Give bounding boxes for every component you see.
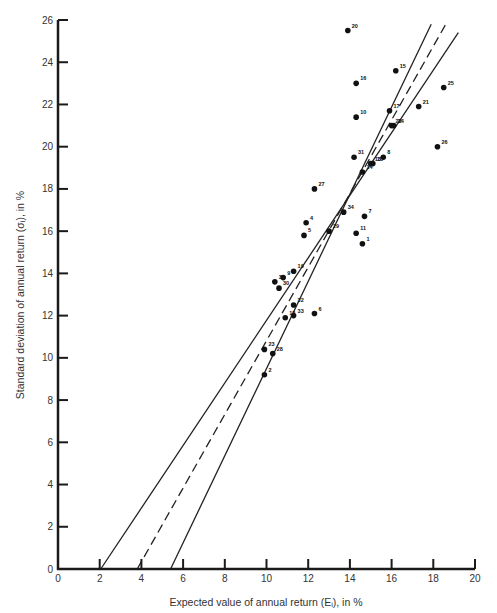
data-point: 1: [360, 236, 370, 247]
point-label: 30: [283, 280, 289, 286]
data-point: 7: [362, 208, 372, 219]
left-solid-line: [101, 33, 459, 569]
point-marker: [341, 209, 347, 215]
data-point: 19: [291, 263, 304, 274]
point-label: 25: [448, 80, 454, 86]
point-marker: [272, 279, 278, 285]
point-label: 32: [298, 297, 304, 303]
point-label: 31: [358, 149, 364, 155]
point-marker: [282, 315, 288, 321]
point-label: 27: [318, 181, 324, 187]
y-tick-label: 4: [47, 479, 53, 490]
y-tick-label: 24: [42, 57, 54, 68]
x-axis-title: Expected value of annual return (Eᵢ), in…: [169, 596, 362, 608]
y-tick-label: 26: [42, 15, 54, 26]
point-label: 11: [360, 225, 366, 231]
data-point: 11: [353, 225, 366, 236]
point-label: 4: [310, 215, 314, 221]
x-tick-label: 12: [303, 573, 315, 584]
y-tick-label: 0: [47, 564, 53, 575]
point-label: 10: [360, 109, 366, 115]
point-label: 1: [366, 236, 369, 242]
x-tick-label: 2: [97, 573, 103, 584]
point-label: 21: [423, 99, 429, 105]
point-marker: [416, 104, 422, 110]
point-marker: [435, 144, 441, 150]
y-tick-label: 12: [42, 310, 54, 321]
point-label: 16: [360, 75, 366, 81]
x-tick-label: 6: [180, 573, 186, 584]
point-label: 18: [377, 156, 383, 162]
x-tick-label: 4: [139, 573, 145, 584]
data-point: 10: [353, 109, 366, 120]
point-label: 17: [394, 103, 400, 109]
y-tick-label: 20: [42, 141, 54, 152]
data-point: 27: [312, 181, 325, 192]
point-marker: [291, 313, 297, 319]
data-point: 4: [303, 215, 314, 226]
point-marker: [270, 351, 276, 357]
data-point: 20: [345, 23, 358, 34]
y-tick-label: 8: [47, 395, 53, 406]
point-marker: [441, 85, 447, 91]
point-marker: [353, 114, 359, 120]
y-tick-label: 10: [42, 352, 54, 363]
point-label: 28: [277, 346, 283, 352]
point-marker: [391, 123, 397, 129]
point-marker: [312, 186, 318, 192]
x-tick-label: 16: [386, 573, 398, 584]
point-label: 29: [333, 223, 339, 229]
point-label: 20: [352, 23, 358, 29]
data-point: 6: [312, 306, 322, 317]
data-point: 21: [416, 99, 429, 110]
x-tick-label: 20: [469, 573, 481, 584]
y-tick-label: 6: [47, 437, 53, 448]
point-label: 8: [387, 149, 390, 155]
data-point: 18: [370, 156, 383, 167]
y-tick-label: 22: [42, 99, 54, 110]
point-label: 33: [298, 308, 304, 314]
point-marker: [301, 233, 307, 239]
point-marker: [276, 285, 282, 291]
data-points: 1234567891011121314151617181920212223242…: [262, 23, 454, 378]
point-label: 23: [268, 341, 274, 347]
y-axis-title: Standard deviation of annual return (σᵢ)…: [14, 191, 26, 399]
scatter-chart: 0246810121416182022242602468101214161820…: [0, 0, 497, 613]
point-marker: [353, 230, 359, 236]
data-point: 15: [393, 63, 406, 74]
data-point: 31: [351, 149, 364, 160]
data-point: 29: [326, 223, 339, 234]
fit-lines: [101, 24, 459, 569]
point-marker: [351, 154, 357, 160]
point-marker: [345, 28, 351, 34]
y-tick-label: 18: [42, 183, 54, 194]
point-marker: [353, 81, 359, 87]
point-label: 2: [268, 367, 271, 373]
x-tick-label: 10: [261, 573, 273, 584]
point-label: 7: [368, 208, 371, 214]
point-marker: [291, 302, 297, 308]
point-marker: [393, 68, 399, 74]
data-point: 26: [435, 139, 448, 150]
x-tick-label: 8: [222, 573, 228, 584]
data-point: 24: [391, 118, 405, 129]
point-marker: [326, 228, 332, 234]
y-tick-label: 14: [42, 268, 54, 279]
data-point: 16: [353, 75, 366, 86]
y-tick-label: 16: [42, 226, 54, 237]
data-point: 25: [441, 80, 454, 91]
point-marker: [362, 214, 368, 220]
data-point: 32: [291, 297, 304, 308]
point-marker: [262, 372, 268, 378]
point-marker: [291, 268, 297, 274]
point-label: 19: [298, 263, 304, 269]
point-marker: [262, 347, 268, 353]
point-label: 24: [398, 118, 405, 124]
data-point: 5: [301, 227, 311, 238]
point-label: 34: [348, 204, 355, 210]
point-label: 26: [441, 139, 447, 145]
axes: 0246810121416182022242602468101214161820: [42, 15, 481, 585]
data-point: 23: [262, 341, 275, 352]
y-tick-label: 2: [47, 521, 53, 532]
point-marker: [360, 241, 366, 247]
